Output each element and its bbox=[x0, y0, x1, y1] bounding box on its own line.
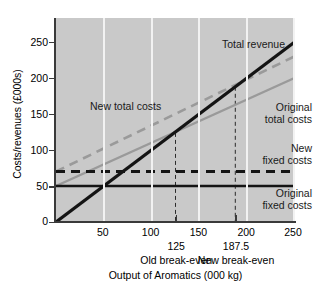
x-tick-label-187: 187.5 bbox=[213, 240, 259, 252]
y-tick-label-0: 0 bbox=[8, 215, 48, 227]
y-tick-200 bbox=[49, 78, 55, 80]
y-axis-spine bbox=[54, 18, 56, 223]
x-tick-label-125: 125 bbox=[153, 240, 199, 252]
gridline-x-150 bbox=[198, 18, 200, 222]
y-tick-150 bbox=[49, 114, 55, 116]
annotation-original-fixed-costs-line1: Original bbox=[248, 188, 312, 200]
x-tick-label-200: 200 bbox=[223, 226, 269, 238]
annotation-new-fixed-costs-line1: New bbox=[248, 143, 312, 155]
y-tick-100 bbox=[49, 150, 55, 152]
y-tick-label-200: 200 bbox=[8, 72, 48, 84]
gridline-x-50 bbox=[103, 18, 105, 222]
annotation-original-fixed-costs: Original fixed costs bbox=[248, 188, 312, 211]
annotation-new-fixed-costs-line2: fixed costs bbox=[248, 155, 312, 167]
y-tick-label-100: 100 bbox=[8, 144, 48, 156]
y-tick-50 bbox=[49, 186, 55, 188]
x-tick-187 bbox=[235, 215, 237, 223]
annotation-new-fixed-costs: New fixed costs bbox=[248, 143, 312, 166]
x-axis-title: Output of Aromatics (000 kg) bbox=[56, 269, 295, 281]
break-even-chart: Costs/revenues (£000s) bbox=[0, 0, 334, 287]
annotation-total-revenue: Total revenue bbox=[222, 39, 285, 51]
y-tick-250 bbox=[49, 42, 55, 44]
x-tick-label-250: 250 bbox=[270, 226, 316, 238]
gridline-x-100 bbox=[151, 18, 153, 222]
y-tick-label-150: 150 bbox=[8, 108, 48, 120]
y-tick-label-250: 250 bbox=[8, 36, 48, 48]
new-break-even-label: New break-even bbox=[176, 254, 296, 266]
y-tick-label-50: 50 bbox=[8, 180, 48, 192]
annotation-new-total-costs: New total costs bbox=[90, 101, 161, 113]
x-tick-label-50: 50 bbox=[80, 226, 126, 238]
x-tick-label-100: 100 bbox=[128, 226, 174, 238]
annotation-original-total-costs-line1: Original bbox=[248, 102, 312, 114]
annotation-original-total-costs-line2: total costs bbox=[248, 114, 312, 126]
annotation-original-total-costs: Original total costs bbox=[248, 102, 312, 125]
x-tick-125 bbox=[176, 215, 178, 223]
y-tick-0 bbox=[49, 222, 55, 224]
x-tick-label-150: 150 bbox=[175, 226, 221, 238]
annotation-original-fixed-costs-line2: fixed costs bbox=[248, 200, 312, 212]
